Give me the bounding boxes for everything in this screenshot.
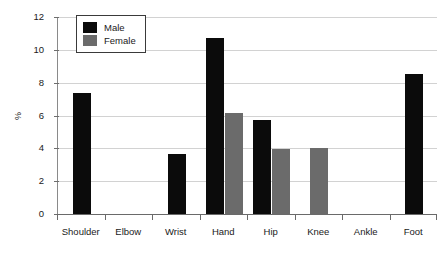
y-tick-label: 10: [33, 45, 44, 55]
legend-label-male: Male: [104, 22, 125, 33]
bar-group: [343, 17, 391, 214]
y-tick-label: 0: [39, 209, 44, 219]
x-tick-mark: [57, 215, 58, 220]
y-tick-label: 8: [39, 78, 44, 88]
legend-swatch-female-icon: [83, 35, 97, 46]
bar-wrist-male: [168, 154, 186, 214]
x-tick-mark: [390, 215, 391, 220]
x-tick-mark: [342, 215, 343, 220]
y-axis-tick-labels: 024681012: [0, 0, 57, 254]
x-tick-label-elbow: Elbow: [115, 226, 141, 238]
legend-item-male: Male: [83, 21, 136, 34]
x-axis-tick-marks: [57, 215, 437, 221]
bar-group: [153, 17, 201, 214]
x-tick-label-ankle: Ankle: [354, 226, 378, 238]
bar-knee-female: [310, 148, 328, 214]
x-axis-tick-labels: ShoulderElbowWristHandHipKneeAnkleFoot: [57, 226, 437, 242]
x-tick-mark: [247, 215, 248, 220]
y-tick-label: 6: [39, 111, 44, 121]
bar-group: [296, 17, 344, 214]
bar-group: [391, 17, 439, 214]
y-tick-label: 12: [33, 12, 44, 22]
bar-group: [201, 17, 249, 214]
legend: Male Female: [76, 15, 146, 53]
x-tick-mark: [436, 215, 437, 220]
bar-foot-male: [405, 74, 423, 214]
bar-shoulder-male: [73, 93, 91, 214]
y-tick-label: 2: [39, 176, 44, 186]
legend-swatch-male-icon: [83, 22, 97, 33]
bar-hip-female: [272, 149, 290, 214]
x-tick-label-foot: Foot: [404, 226, 423, 238]
bar-chart: % 024681012 ShoulderElbowWristHandHipKne…: [0, 0, 445, 254]
bar-hip-male: [253, 120, 271, 214]
bar-hand-female: [225, 113, 243, 214]
y-tick-label: 4: [39, 143, 44, 153]
bar-group: [248, 17, 296, 214]
x-tick-label-hip: Hip: [264, 226, 278, 238]
x-tick-mark: [295, 215, 296, 220]
x-tick-mark: [105, 215, 106, 220]
legend-label-female: Female: [104, 35, 136, 46]
x-tick-label-shoulder: Shoulder: [62, 226, 100, 238]
legend-item-female: Female: [83, 34, 136, 47]
x-tick-label-wrist: Wrist: [165, 226, 186, 238]
x-tick-label-knee: Knee: [307, 226, 329, 238]
x-tick-mark: [200, 215, 201, 220]
x-tick-mark: [152, 215, 153, 220]
x-tick-label-hand: Hand: [212, 226, 235, 238]
bar-hand-male: [206, 38, 224, 214]
